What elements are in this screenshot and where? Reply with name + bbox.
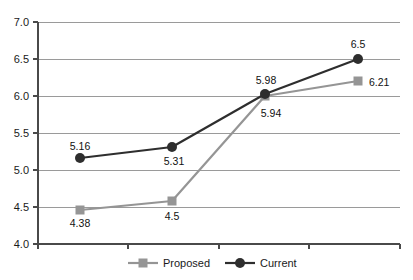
y-axis-label-0: 7.0 [14,16,29,28]
chart-canvas: 7.0 6.5 6.0 5.5 5.0 4.5 4.0 5.16 5 [0,0,413,280]
series-proposed-marker-3 [354,77,363,86]
series-current-marker-3 [353,54,363,64]
y-axis-label-4: 5.0 [14,164,29,176]
y-axis-label-3: 5.5 [14,127,29,139]
series-proposed-marker-1 [168,197,177,206]
series-current-marker-0 [75,153,85,163]
value-label-current-0: 5.16 [70,140,91,152]
value-label-proposed-0: 4.38 [70,217,91,229]
series-current-marker-2 [260,89,270,99]
legend-label-current: Current [260,257,297,269]
value-label-proposed-1: 4.5 [165,210,180,222]
legend-marker-proposed-square-icon [139,259,148,268]
value-label-proposed-2: 5.94 [261,107,282,119]
value-label-proposed-3: 6.21 [369,76,390,88]
legend-marker-current-circle-icon [235,258,245,268]
series-proposed-marker-0 [76,206,85,215]
series-current-marker-1 [167,142,177,152]
y-axis-label-1: 6.5 [14,53,29,65]
y-axis-label-2: 6.0 [14,90,29,102]
value-label-current-1: 5.31 [164,155,185,167]
legend-item-proposed[interactable]: Proposed [128,257,210,269]
y-axis-label-5: 4.5 [14,201,29,213]
legend-label-proposed: Proposed [163,257,210,269]
value-label-current-2: 5.98 [256,74,277,86]
y-axis-label-6: 4.0 [14,238,29,250]
line-chart: 7.0 6.5 6.0 5.5 5.0 4.5 4.0 5.16 5 [0,0,413,280]
value-label-current-3: 6.5 [351,38,366,50]
